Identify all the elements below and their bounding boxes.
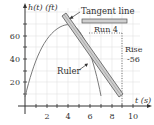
run-label: Run 4 [94,25,118,34]
rise-value: -56 [127,55,140,64]
arrow-head-icon [85,64,89,68]
xtick-label: 8 [109,112,114,121]
tangent-line-chart: 2 4 6 8 10 20 40 60 h(t) (ft) t (s) Tang… [0,0,154,125]
xtick-label: 6 [87,112,92,121]
xtick-label: 10 [128,112,138,121]
x-axis-label: t (s) [135,96,151,105]
height-curve [25,25,101,97]
xtick-label: 4 [65,112,70,121]
ruler-label: Ruler [57,66,82,76]
ytick-label: 60 [10,32,20,41]
y-axis-label: h(t) (ft) [28,3,58,12]
xtick-label: 2 [44,112,49,121]
rise-label: Rise [125,45,143,54]
arrow-head-icon [69,16,74,20]
ytick-label: 40 [10,55,20,64]
ytick-label: 20 [10,78,20,87]
tangent-line-label: Tangent line [81,6,135,16]
tangent-line-swatch [82,19,127,23]
y-axis-arrow-icon [23,3,27,8]
